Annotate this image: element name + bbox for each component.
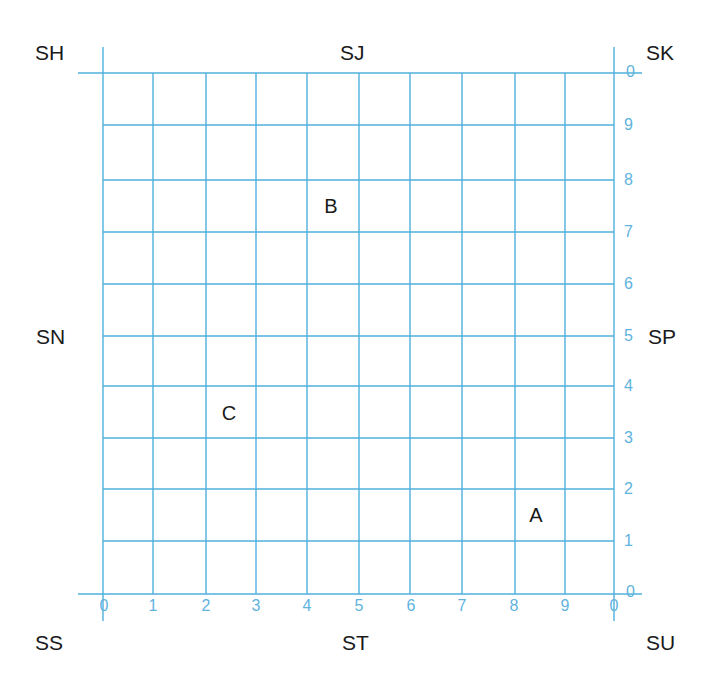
y-tick-9: 9 [624,117,633,133]
y-tick-5: 5 [624,328,633,344]
x-tick-10: 0 [610,598,619,614]
x-tick-5: 5 [355,598,364,614]
y-tick-10: 0 [626,64,635,80]
x-tick-7: 7 [458,598,467,614]
square-label-bottom-left: SS [35,632,63,653]
grid-lines [0,0,713,684]
square-label-middle-right: SP [648,326,676,347]
x-tick-4: 4 [303,598,312,614]
y-tick-1: 1 [624,533,633,549]
y-tick-6: 6 [624,276,633,292]
square-label-bottom-middle: ST [342,632,369,653]
x-tick-8: 8 [510,598,519,614]
x-tick-3: 3 [252,598,261,614]
square-label-middle-left: SN [36,326,65,347]
y-tick-3: 3 [624,430,633,446]
square-label-top-left: SH [35,42,64,63]
x-tick-9: 9 [561,598,570,614]
x-tick-0: 0 [100,598,109,614]
square-label-bottom-right: SU [646,632,675,653]
x-tick-1: 1 [149,598,158,614]
y-tick-7: 7 [624,224,633,240]
y-tick-4: 4 [624,378,633,394]
y-tick-8: 8 [624,172,633,188]
x-tick-2: 2 [202,598,211,614]
square-label-top-middle: SJ [340,42,365,63]
y-tick-0: 0 [626,584,635,600]
point-c: C [222,403,236,423]
x-tick-6: 6 [407,598,416,614]
point-a: A [529,505,542,525]
y-tick-2: 2 [624,481,633,497]
square-label-top-right: SK [646,42,674,63]
point-b: B [324,196,337,216]
